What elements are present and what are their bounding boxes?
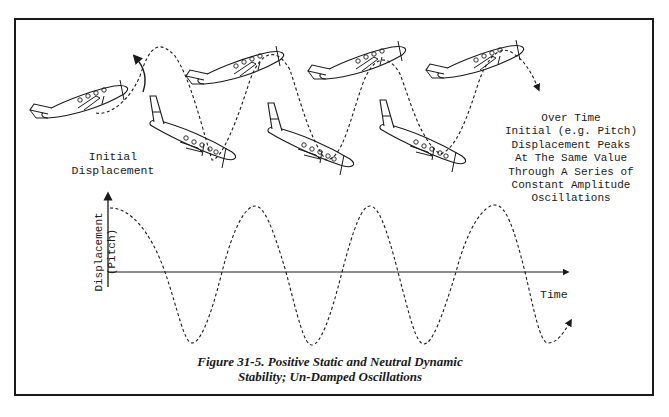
caption-line2: Stability; Un-Damped Oscillations	[150, 369, 510, 384]
constant-amplitude-annotation: Over Time Initial (e.g. Pitch) Displacem…	[486, 112, 656, 206]
airplane-peak-1-icon	[186, 46, 284, 84]
y-axis-label-line2: (Pitch)	[106, 207, 119, 297]
oscillation-wave	[110, 205, 570, 345]
y-axis-label: Displacement (Pitch)	[93, 207, 118, 297]
caption-line1: Figure 31-5. Positive Static and Neutral…	[150, 354, 510, 369]
x-axis-label: Time	[540, 288, 568, 301]
airplane-peak-2-icon	[308, 41, 406, 79]
annotation-line: Constant Amplitude	[486, 179, 656, 192]
initial-displacement-label: Initial Displacement	[58, 150, 168, 178]
annotation-line: Displacement Peaks	[486, 139, 656, 152]
annotation-line: Oscillations	[486, 192, 656, 205]
annotation-line: Through A Series of	[486, 166, 656, 179]
airplane-initial-icon	[30, 80, 128, 118]
y-axis-label-line1: Displacement	[93, 207, 106, 297]
airplane-peak-3-icon	[426, 40, 524, 78]
annotation-line: At The Same Value	[486, 152, 656, 165]
figure-caption: Figure 31-5. Positive Static and Neutral…	[150, 354, 510, 384]
initial-label-line2: Displacement	[58, 164, 168, 178]
airplane-trough-3-icon	[380, 100, 466, 172]
annotation-line: Over Time	[486, 112, 656, 125]
airplane-trough-2-icon	[268, 103, 354, 175]
initial-label-line1: Initial	[58, 150, 168, 164]
annotation-line: Initial (e.g. Pitch)	[486, 125, 656, 138]
